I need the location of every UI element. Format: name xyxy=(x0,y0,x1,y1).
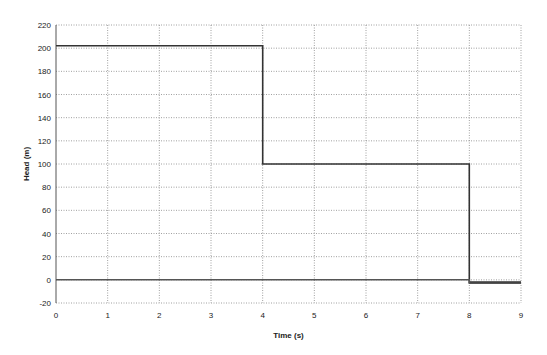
series-line-baseline xyxy=(56,280,521,284)
x-tick-label: 9 xyxy=(519,311,524,320)
x-tick-label: 8 xyxy=(467,311,472,320)
x-tick-label: 2 xyxy=(157,311,162,320)
series-line-head xyxy=(56,46,521,282)
y-tick-label: 220 xyxy=(38,21,52,30)
y-tick-label: 120 xyxy=(38,137,52,146)
y-tick-label: 100 xyxy=(38,160,52,169)
x-tick-label: 7 xyxy=(415,311,420,320)
x-tick-label: 6 xyxy=(364,311,369,320)
chart: -200204060801001201401601802002200123456… xyxy=(0,0,547,355)
y-axis-title: Head (m) xyxy=(22,147,31,182)
x-axis-title: Time (s) xyxy=(273,331,304,340)
y-tick-label: 180 xyxy=(38,67,52,76)
y-tick-label: -20 xyxy=(39,299,51,308)
y-tick-label: 40 xyxy=(42,230,51,239)
x-tick-label: 3 xyxy=(209,311,214,320)
tick-labels: -200204060801001201401601802002200123456… xyxy=(38,21,524,320)
x-tick-label: 5 xyxy=(312,311,317,320)
series xyxy=(56,46,521,283)
y-tick-label: 60 xyxy=(42,206,51,215)
y-tick-label: 160 xyxy=(38,91,52,100)
y-tick-label: 140 xyxy=(38,114,52,123)
y-tick-label: 80 xyxy=(42,183,51,192)
x-tick-label: 4 xyxy=(260,311,265,320)
x-tick-label: 0 xyxy=(54,311,59,320)
y-tick-label: 200 xyxy=(38,44,52,53)
y-tick-label: 0 xyxy=(47,276,52,285)
y-tick-label: 20 xyxy=(42,253,51,262)
x-tick-label: 1 xyxy=(105,311,110,320)
